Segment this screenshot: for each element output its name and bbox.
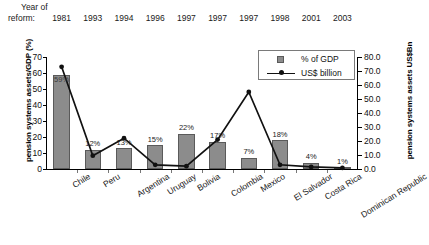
y-tick-label-right: 10.0 (364, 151, 394, 160)
legend-dot-icon (279, 70, 284, 75)
line-point (90, 153, 95, 158)
bar-value-label: 15% (135, 136, 175, 144)
year-of-reform-values: 1981199319941996199719971997199820012003 (46, 13, 358, 24)
year-of-reform-value: 1996 (140, 13, 171, 24)
year-of-reform-value: 1997 (171, 13, 202, 24)
line-point (59, 64, 64, 69)
bar-value-label: 7% (229, 148, 269, 156)
year-of-reform-line2: reform: (8, 13, 48, 24)
x-category-label: Uruguay (166, 172, 198, 197)
legend-square-icon (277, 56, 284, 63)
y-tick-label-right: 50.0 (364, 95, 394, 104)
y-tick-right (358, 99, 362, 100)
year-of-reform-line1: Year of (8, 2, 48, 13)
line-point (246, 90, 251, 95)
y-tick-right (358, 57, 362, 58)
year-of-reform-header: Year of reform: (8, 2, 48, 23)
bar-value-label: 17% (198, 132, 238, 140)
y-tick-label-left: 20 (20, 133, 42, 142)
year-of-reform-value: 1994 (108, 13, 139, 24)
line-point (309, 165, 314, 170)
y-tick-label-right: 70.0 (364, 67, 394, 76)
y-tick-label-left: 40 (20, 101, 42, 110)
legend-item-pct-of-gdp: % of GDP (259, 52, 356, 65)
y-tick-right (358, 127, 362, 128)
year-of-reform-value: 1998 (264, 13, 295, 24)
y-tick-right (358, 85, 362, 86)
year-of-reform-value: 1981 (46, 13, 77, 24)
y-tick-right (358, 71, 362, 72)
y-tick-label-right: 60.0 (364, 81, 394, 90)
y-tick-label-right: 40.0 (364, 109, 394, 118)
y-tick-label-left: 60 (20, 69, 42, 78)
y-tick-label-left: 50 (20, 85, 42, 94)
y-tick-right (358, 141, 362, 142)
bar-value-label: 18% (260, 131, 300, 139)
legend-label-usd-billion: US$ billion (301, 68, 342, 78)
x-category-label: Bolivia (196, 172, 222, 193)
y-tick-right (358, 113, 362, 114)
line-point (153, 162, 158, 167)
y-tick-label-right: 80.0 (364, 53, 394, 62)
year-of-reform-value: 2003 (327, 13, 358, 24)
y-tick-right (358, 169, 362, 170)
bar-value-label: 1% (322, 158, 362, 166)
y-tick-right (358, 155, 362, 156)
x-category-label: Dominican Republic (360, 172, 429, 220)
y-axis-right-title: pension systems assets US$Bn (405, 26, 414, 176)
x-axis-category-labels: ChilePeruArgentinaUruguayBoliviaColombia… (0, 172, 416, 242)
y-tick-label-right: 20.0 (364, 137, 394, 146)
legend-item-usd-billion: US$ billion (259, 66, 356, 79)
y-tick-label-right: 30.0 (364, 123, 394, 132)
y-tick-label-left: 70 (20, 53, 42, 62)
bar-value-label: 59% (42, 76, 82, 84)
line-point (278, 162, 283, 167)
line-point (340, 165, 345, 170)
y-tick-label-left: 10 (20, 149, 42, 158)
line-point (184, 164, 189, 169)
x-category-label: Mexico (259, 172, 287, 194)
x-category-label: Chile (71, 172, 92, 190)
year-of-reform-value: 1993 (77, 13, 108, 24)
year-of-reform-value: 2001 (296, 13, 327, 24)
legend-label-pct-of-gdp: % of GDP (301, 54, 339, 64)
y-tick-label-left: 30 (20, 117, 42, 126)
bar-value-label: 22% (166, 124, 206, 132)
year-of-reform-value: 1997 (202, 13, 233, 24)
year-of-reform-value: 1997 (233, 13, 264, 24)
x-category-label: Peru (102, 172, 122, 189)
x-category-label: Argentina (136, 172, 172, 199)
chart-legend: % of GDP US$ billion (258, 50, 355, 80)
